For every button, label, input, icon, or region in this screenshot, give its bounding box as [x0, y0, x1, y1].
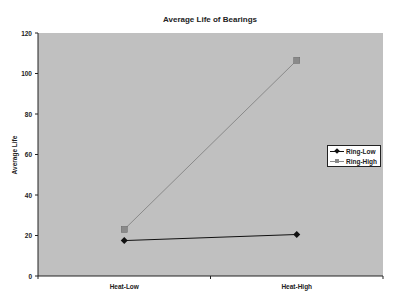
square-marker-icon	[330, 157, 344, 165]
y-tick-label: 120	[21, 30, 32, 37]
square-marker-icon	[294, 57, 300, 63]
y-tick-label: 80	[25, 111, 33, 118]
y-tick-label: 100	[21, 70, 32, 77]
y-tick-label: 60	[25, 151, 33, 158]
legend-label: Ring-High	[346, 158, 377, 165]
legend: Ring-Low Ring-High	[327, 145, 381, 167]
legend-item-ring-low: Ring-Low	[328, 146, 380, 156]
chart-title: Average Life of Bearings	[163, 15, 258, 24]
y-tick-label: 40	[25, 192, 33, 199]
y-tick-label: 0	[28, 273, 32, 280]
x-tick-label: Heat-Low	[110, 283, 140, 290]
legend-label: Ring-Low	[346, 148, 376, 155]
x-tick-label: Heat-High	[281, 283, 312, 291]
legend-item-ring-high: Ring-High	[328, 156, 380, 166]
y-tick-label: 20	[25, 232, 33, 239]
y-axis-label: Average Life	[11, 135, 19, 174]
square-marker-icon	[121, 226, 127, 232]
diamond-marker-icon	[330, 147, 344, 155]
